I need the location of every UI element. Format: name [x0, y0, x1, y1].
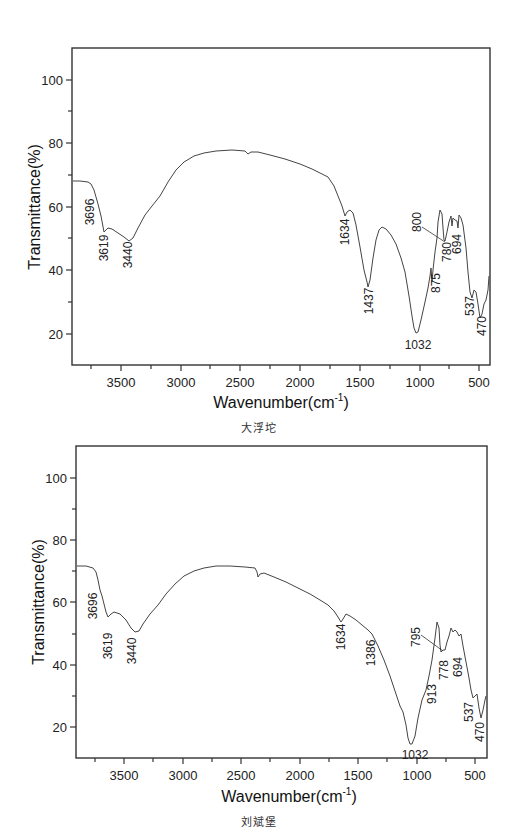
x-axis-tick-labels: 3500 3000 2500 2000 1500 1000 500 — [110, 768, 486, 783]
plot-frame — [76, 446, 487, 758]
svg-text:80: 80 — [53, 533, 67, 548]
peak-795: 795 — [409, 627, 423, 647]
peak-1032: 1032 — [402, 748, 429, 762]
svg-text:20: 20 — [53, 720, 67, 735]
peak-470: 470 — [473, 722, 487, 742]
x-axis-title: Wavenumber(cm-1) — [221, 786, 356, 805]
peak-1634: 1634 — [334, 623, 348, 650]
svg-text:3500: 3500 — [110, 768, 139, 783]
svg-text:100: 100 — [45, 471, 67, 486]
peak-3696: 3696 — [86, 592, 100, 619]
svg-text:2500: 2500 — [227, 768, 256, 783]
svg-text:1000: 1000 — [403, 768, 432, 783]
chart-svg: 20 40 60 80 100 3500 3000 2500 200 — [0, 0, 517, 840]
y-axis-title: Transmittance(%) — [30, 539, 47, 665]
peak-694: 694 — [451, 657, 465, 677]
svg-text:2000: 2000 — [286, 768, 315, 783]
ftir-chart-liubinbao: 20 40 60 80 100 3500 3000 2500 200 — [0, 0, 517, 840]
svg-text:1500: 1500 — [344, 768, 373, 783]
y-axis-ticks — [70, 478, 76, 727]
peak-annotations: 3696 3619 3440 1634 1386 1032 913 795 77… — [86, 592, 487, 762]
peak-1386: 1386 — [364, 639, 378, 666]
svg-text:40: 40 — [53, 658, 67, 673]
peak-3619: 3619 — [101, 632, 115, 659]
peak-778: 778 — [437, 660, 451, 680]
svg-text:3000: 3000 — [169, 768, 198, 783]
y-axis-tick-labels: 20 40 60 80 100 — [45, 471, 67, 735]
svg-text:60: 60 — [53, 595, 67, 610]
chart-caption-liubinbao: 刘斌堡 — [0, 813, 517, 829]
svg-text:500: 500 — [464, 768, 486, 783]
peak-3440: 3440 — [125, 637, 139, 664]
peak-537: 537 — [462, 702, 476, 722]
peak-913: 913 — [425, 684, 439, 704]
